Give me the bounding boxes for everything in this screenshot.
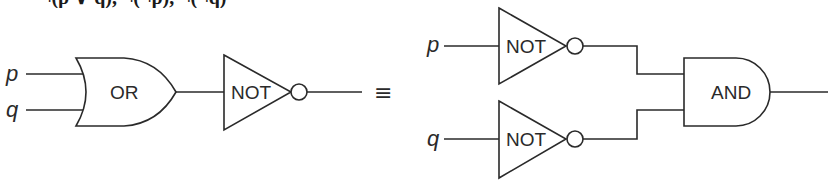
wire-notq-to-and [583,110,684,139]
not-gate-p: NOT [499,8,583,84]
input-p-label: p [426,32,439,57]
input-q-label: q [6,97,19,122]
cutoff-heading: ¬(p ∨ q), ¬(¬p), ¬(¬q) [40,0,226,9]
or-gate-label: OR [110,82,139,103]
logic-diagram: ¬(p ∨ q), ¬(¬p), ¬(¬q) p q OR NOT ≡ p q [0,0,835,183]
not-gate-label: NOT [506,129,547,150]
not-gate-label: NOT [506,36,547,57]
and-gate-label: AND [711,82,751,103]
inversion-bubble [291,84,307,100]
right-circuit: p q NOT NOT AND [426,8,828,178]
left-circuit: p q OR NOT [5,55,362,130]
input-q-label: q [427,126,440,151]
not-gate-q: NOT [499,101,583,178]
inversion-bubble [567,131,583,147]
inversion-bubble [567,38,583,54]
not-gate-label: NOT [231,82,272,103]
svg-text:¬(p ∨ q), ¬(¬p), ¬(¬q): ¬(p ∨ q), ¬(¬p), ¬(¬q) [40,0,226,9]
and-gate: AND [684,58,770,126]
or-gate: OR [76,58,176,126]
not-gate: NOT [224,55,307,130]
input-p-label: p [5,61,18,86]
equivalence-symbol: ≡ [374,80,392,105]
wire-notp-to-and [583,46,684,74]
